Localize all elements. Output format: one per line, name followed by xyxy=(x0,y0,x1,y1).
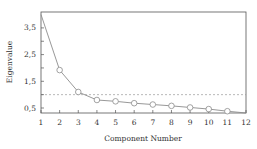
x-tick-label: 5 xyxy=(113,118,118,127)
x-tick-label: 12 xyxy=(241,118,251,127)
data-point xyxy=(150,102,156,108)
data-point xyxy=(225,108,231,114)
data-point xyxy=(169,103,175,109)
y-axis-title: Eigenvalue xyxy=(5,40,14,83)
y-tick-label: 2,5 xyxy=(24,50,36,59)
y-tick-label: 0,5 xyxy=(24,104,36,113)
data-point xyxy=(94,97,100,103)
x-tick-label: 9 xyxy=(188,118,193,127)
data-point xyxy=(206,106,212,112)
data-point xyxy=(187,105,193,111)
x-tick-label: 10 xyxy=(204,118,214,127)
x-tick-label: 1 xyxy=(39,118,44,127)
x-tick-label: 6 xyxy=(132,118,137,127)
series-line xyxy=(41,15,246,113)
plot-frame xyxy=(41,12,246,113)
x-tick-label: 7 xyxy=(150,118,155,127)
x-tick-label: 11 xyxy=(223,118,233,127)
data-point xyxy=(75,89,81,95)
data-point xyxy=(57,67,63,73)
x-tick-label: 3 xyxy=(76,118,81,127)
scree-plot: 1234567891011120,51,52,53,5 Component Nu… xyxy=(0,0,257,149)
x-tick-label: 8 xyxy=(169,118,174,127)
data-point xyxy=(113,99,119,105)
y-tick-label: 3,5 xyxy=(24,23,36,32)
y-tick-label: 1,5 xyxy=(24,77,36,86)
data-point xyxy=(131,100,137,106)
x-axis-title: Component Number xyxy=(104,134,182,143)
x-tick-label: 2 xyxy=(57,118,62,127)
x-tick-label: 4 xyxy=(95,118,100,127)
